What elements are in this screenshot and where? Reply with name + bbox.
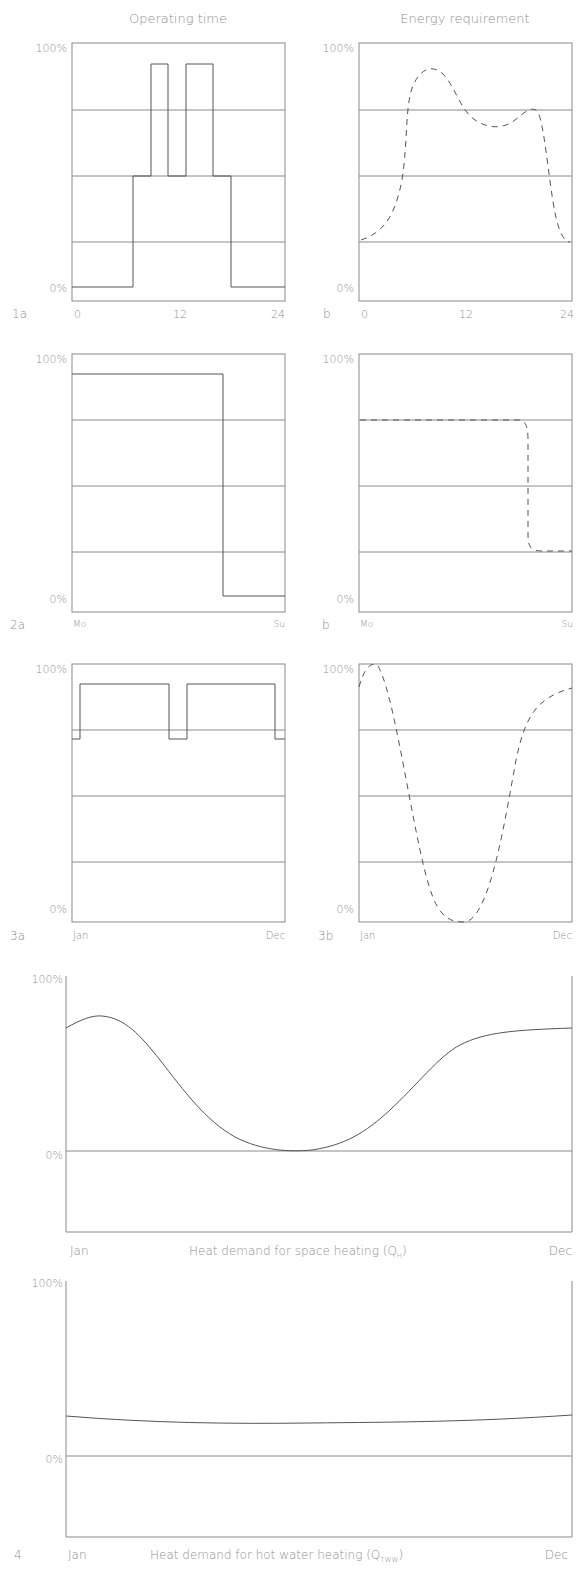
x-tick: 12 bbox=[459, 308, 473, 321]
x-tick: Jan bbox=[70, 1244, 89, 1258]
x-tick: Dec bbox=[266, 930, 285, 941]
x-tick: Dec bbox=[553, 930, 572, 941]
y-label-100: 100% bbox=[36, 663, 67, 676]
plot-frame bbox=[72, 43, 285, 301]
plot-frame bbox=[359, 664, 572, 922]
panel-label: b bbox=[322, 618, 330, 632]
x-tick: 24 bbox=[271, 308, 285, 321]
y-label-0: 0% bbox=[50, 593, 67, 606]
plot-frame bbox=[66, 1281, 572, 1537]
x-tick: Jan bbox=[73, 930, 88, 941]
chart-title: Heat demand for hot water heating (QTWW) bbox=[150, 1548, 403, 1564]
x-tick: Jan bbox=[360, 930, 375, 941]
x-tick: 0 bbox=[361, 308, 368, 321]
x-tick: 12 bbox=[173, 308, 187, 321]
hot-water-curve bbox=[66, 1415, 572, 1423]
y-label-0: 0% bbox=[46, 1149, 63, 1162]
y-label-100: 100% bbox=[32, 973, 63, 986]
space-heating-curve bbox=[66, 1016, 572, 1151]
x-tick: 0 bbox=[74, 308, 81, 321]
plot-frame bbox=[66, 976, 572, 1232]
chart-1b: 100% 0% b 0 12 24 bbox=[323, 42, 574, 321]
panel-label: 1a bbox=[12, 307, 27, 321]
plot-frame bbox=[72, 354, 285, 612]
chart-2b: 100% 0% b Mo Su bbox=[322, 353, 573, 632]
x-tick: Mo bbox=[360, 619, 373, 629]
chart-space-heating: 100% 0% Jan Dec Heat demand for space he… bbox=[32, 973, 572, 1260]
x-tick: Jan bbox=[68, 1548, 87, 1562]
y-label-0: 0% bbox=[337, 903, 354, 916]
plot-frame bbox=[72, 664, 285, 922]
chart-2a: 100% 0% 2a Mo Su bbox=[10, 353, 285, 632]
chart-title: Heat demand for space heating (QH) bbox=[189, 1244, 407, 1260]
operating-step-line bbox=[72, 684, 285, 739]
panel-label: 2a bbox=[10, 618, 25, 632]
panel-label: b bbox=[323, 307, 331, 321]
header-energy-requirement: Energy requirement bbox=[400, 11, 529, 26]
y-label-0: 0% bbox=[46, 1453, 63, 1466]
x-tick: 24 bbox=[560, 308, 574, 321]
x-tick: Su bbox=[274, 619, 285, 629]
chart-3a: 100% 0% 3a Jan Dec bbox=[10, 663, 285, 943]
header-operating-time: Operating time bbox=[129, 11, 227, 26]
panel-label: 4 bbox=[14, 1548, 22, 1562]
energy-curve bbox=[361, 69, 570, 242]
panel-label: 3b bbox=[318, 929, 333, 943]
y-label-0: 0% bbox=[50, 903, 67, 916]
x-tick: Dec bbox=[549, 1244, 572, 1258]
x-tick: Mo bbox=[73, 619, 86, 629]
x-tick: Su bbox=[562, 619, 573, 629]
y-label-0: 0% bbox=[337, 593, 354, 606]
y-label-0: 0% bbox=[50, 282, 67, 295]
chart-1a: 100% 0% 1a 0 12 24 bbox=[12, 42, 285, 321]
energy-curve bbox=[359, 664, 572, 922]
y-label-100: 100% bbox=[36, 42, 67, 55]
plot-frame bbox=[359, 354, 572, 612]
y-label-100: 100% bbox=[323, 663, 354, 676]
chart-hot-water-heating: 100% 0% 4 Jan Dec Heat demand for hot wa… bbox=[14, 1277, 572, 1564]
y-label-100: 100% bbox=[323, 42, 354, 55]
y-label-100: 100% bbox=[323, 353, 354, 366]
operating-step-line bbox=[72, 374, 285, 596]
figure: Operating time Energy requirement 100% 0… bbox=[0, 0, 577, 1582]
panel-label: 3a bbox=[10, 929, 25, 943]
chart-3b: 100% 0% 3b Jan Dec bbox=[318, 663, 572, 943]
y-label-100: 100% bbox=[36, 353, 67, 366]
y-label-100: 100% bbox=[32, 1277, 63, 1290]
y-label-0: 0% bbox=[337, 282, 354, 295]
x-tick: Dec bbox=[545, 1548, 568, 1562]
plot-frame bbox=[359, 43, 572, 301]
